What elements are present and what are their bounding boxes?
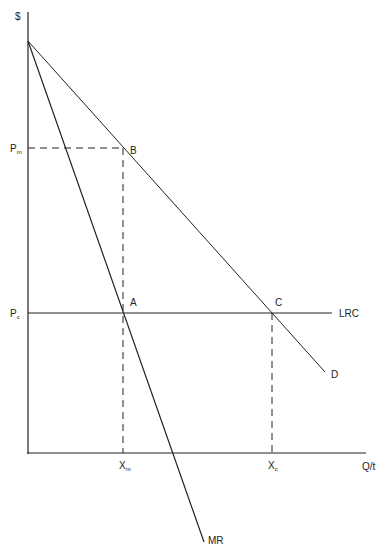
xc-label: Xc [268, 460, 278, 472]
demand-label: D [331, 369, 338, 380]
pm-label: Pm [10, 143, 22, 155]
pc-label: Pc [10, 308, 20, 320]
xm-label: Xm [119, 460, 131, 472]
monopoly-diagram: $ Q/t Pm Pc Xm Xc B A C LRC D MR [0, 0, 388, 550]
mr-label: MR [208, 535, 224, 546]
point-c-label: C [275, 297, 282, 308]
lrc-label: LRC [339, 308, 359, 319]
x-axis-label: Q/t [362, 461, 376, 472]
point-b-label: B [130, 145, 137, 156]
point-a-label: A [130, 297, 137, 308]
demand-curve [28, 41, 325, 372]
y-axis-label: $ [15, 11, 21, 22]
marginal-revenue-curve [28, 41, 204, 542]
